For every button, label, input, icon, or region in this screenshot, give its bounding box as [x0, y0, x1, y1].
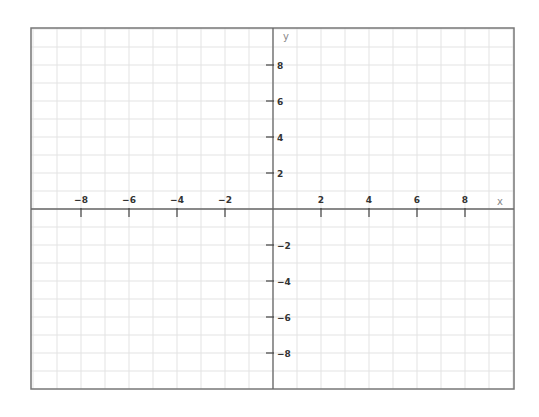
- x-tick-label: −8: [74, 195, 88, 205]
- x-axis-label: x: [497, 196, 503, 207]
- x-tick-label: 4: [366, 195, 372, 205]
- y-tick-label: −6: [277, 313, 291, 323]
- y-axis-label: y: [283, 31, 289, 42]
- y-tick-label: −8: [277, 349, 291, 359]
- x-tick-label: −6: [122, 195, 136, 205]
- y-tick-label: 6: [277, 97, 283, 107]
- y-tick-label: 2: [277, 169, 283, 179]
- y-tick-label: 4: [277, 133, 283, 143]
- y-tick-label: −2: [277, 241, 291, 251]
- x-tick-label: 6: [414, 195, 420, 205]
- y-tick-label: −4: [277, 277, 291, 287]
- x-tick-label: −2: [218, 195, 232, 205]
- x-tick-label: 8: [462, 195, 468, 205]
- y-tick-label: 8: [277, 61, 283, 71]
- x-axis-ticks: −8−6−4−22468: [74, 195, 468, 217]
- x-tick-label: 2: [318, 195, 324, 205]
- coordinate-plane: −8−6−4−22468 8642−2−4−6−8 x y: [0, 0, 539, 417]
- x-tick-label: −4: [170, 195, 184, 205]
